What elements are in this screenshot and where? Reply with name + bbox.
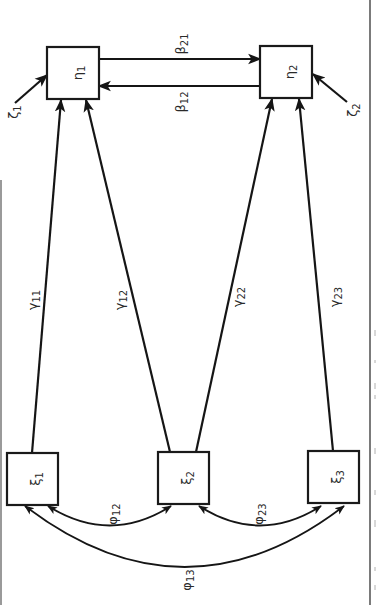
- gamma11-label: γ11: [25, 290, 43, 310]
- svg-text:β12: β12: [173, 91, 191, 112]
- svg-text:γ12: γ12: [112, 290, 130, 310]
- path-diagram: η1 η2 ξ1 ξ2 ξ3 ζ1 ζ2 β21: [0, 0, 377, 605]
- zeta1-arrow: [15, 75, 47, 103]
- phi13-label: φ13: [179, 569, 197, 590]
- gamma23-label: γ23: [327, 287, 345, 307]
- svg-text:φ12: φ12: [105, 503, 123, 524]
- phi23-label: φ23: [251, 503, 269, 524]
- gamma11-arrow: [32, 100, 61, 453]
- phi12-label: φ12: [105, 503, 123, 524]
- svg-text:γ23: γ23: [327, 287, 345, 307]
- svg-text:ζ2: ζ2: [345, 103, 363, 116]
- svg-text:γ11: γ11: [25, 290, 43, 310]
- svg-text:ζ1: ζ1: [6, 105, 24, 118]
- svg-text:φ23: φ23: [251, 503, 269, 524]
- gamma23-arrow: [299, 99, 333, 451]
- svg-text:γ22: γ22: [230, 287, 248, 307]
- zeta2-arrow: [313, 74, 347, 102]
- beta12-label: β12: [173, 91, 191, 112]
- phi13-curve: [25, 506, 344, 567]
- svg-text:β21: β21: [173, 33, 191, 54]
- svg-text:φ13: φ13: [179, 569, 197, 590]
- gamma12-arrow: [86, 100, 170, 452]
- gamma12-label: γ12: [112, 290, 130, 310]
- gamma22-arrow: [196, 99, 272, 452]
- beta21-label: β21: [173, 33, 191, 54]
- zeta2-label: ζ2: [345, 103, 363, 116]
- zeta1-label: ζ1: [6, 105, 24, 118]
- gamma22-label: γ22: [230, 287, 248, 307]
